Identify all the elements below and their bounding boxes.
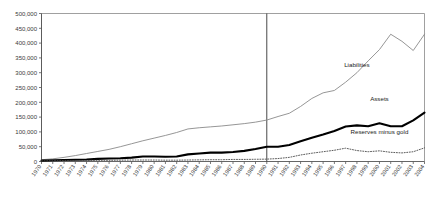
x-tick-label: 1980 (143, 164, 155, 178)
annotation-assets: Assets (370, 95, 389, 102)
x-tick-label: 1975 (87, 164, 99, 178)
x-tick-label: 1982 (165, 164, 177, 178)
x-tick-label: 1983 (177, 164, 189, 178)
plot-frame (42, 14, 425, 162)
x-tick-label: 1971 (42, 164, 54, 178)
annotation-reserves-minus-gold: Reserves minus gold (351, 128, 409, 135)
x-tick-label: 1996 (323, 164, 335, 178)
y-tick-label: 450,000 (15, 26, 37, 32)
x-tick-label: 1970 (30, 164, 42, 178)
annotation-liabilities: Liabilities (344, 61, 369, 68)
x-tick-label: 2000 (368, 164, 380, 178)
y-tick-label: 350,000 (15, 55, 37, 61)
x-tick-label: 1992 (278, 164, 290, 178)
y-tick-label: 400,000 (15, 40, 37, 46)
series-line-liabilities (42, 34, 425, 160)
x-tick-label: 1991 (267, 164, 279, 178)
x-tick-label: 1977 (109, 164, 121, 178)
x-tick-label: 1976 (98, 164, 110, 178)
y-axis-tick-labels: 050,000100,000150,000200,000250,000300,0… (15, 11, 37, 165)
y-tick-label: 50,000 (19, 144, 38, 150)
x-tick-label: 2004 (413, 164, 425, 178)
series-line-assets (42, 113, 425, 161)
chart-container: 050,000100,000150,000200,000250,000300,0… (0, 0, 443, 206)
x-tick-label: 1984 (188, 164, 200, 178)
y-tick-label: 200,000 (15, 100, 37, 106)
x-tick-label: 2003 (402, 164, 414, 178)
y-tick-label: 300,000 (15, 70, 37, 76)
line-chart: 050,000100,000150,000200,000250,000300,0… (0, 0, 443, 206)
x-tick-label: 1974 (75, 164, 87, 178)
y-tick-label: 150,000 (15, 114, 37, 120)
x-tick-label: 1990 (256, 164, 268, 178)
x-tick-label: 1994 (301, 164, 313, 178)
x-tick-label: 1987 (222, 164, 234, 178)
x-axis-tick-labels: 1970197119721973197419751976197719781979… (30, 164, 425, 178)
x-tick-label: 1997 (334, 164, 346, 178)
x-tick-label: 1985 (199, 164, 211, 178)
x-tick-label: 1986 (210, 164, 222, 178)
x-tick-label: 1978 (120, 164, 132, 178)
x-tick-label: 1993 (289, 164, 301, 178)
x-tick-label: 1972 (53, 164, 65, 178)
x-tick-label: 2001 (379, 164, 391, 178)
x-tick-label: 1979 (132, 164, 144, 178)
plot-border (42, 14, 425, 162)
y-tick-label: 500,000 (15, 11, 37, 17)
x-tick-label: 1988 (233, 164, 245, 178)
x-tick-label: 1989 (244, 164, 256, 178)
x-tick-label: 1998 (346, 164, 358, 178)
series-lines (42, 34, 425, 161)
x-tick-label: 1999 (357, 164, 369, 178)
y-tick-label: 100,000 (15, 129, 37, 135)
x-tick-label: 1973 (64, 164, 76, 178)
x-tick-label: 2002 (391, 164, 403, 178)
y-tick-label: 250,000 (15, 85, 37, 91)
x-tick-label: 1995 (312, 164, 324, 178)
x-tick-label: 1981 (154, 164, 166, 178)
